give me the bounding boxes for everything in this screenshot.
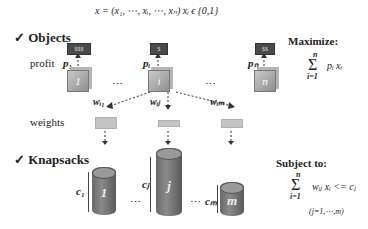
weight-bar-im bbox=[221, 119, 243, 128]
knapsack-label-m: m bbox=[227, 193, 237, 208]
constraint-expr: wᵢⱼ xᵢ <= cⱼ bbox=[312, 181, 356, 192]
weight-label-im: wᵢₘ bbox=[210, 96, 224, 107]
objects-heading: ✓ Objects bbox=[14, 30, 71, 46]
objective-expr: pᵢ xᵢ bbox=[327, 60, 342, 71]
knapsacks-ellipsis-left: ⋯ bbox=[130, 196, 142, 209]
capacity-label-m: cₘ bbox=[205, 195, 217, 208]
decision-vector-formula: x = (x₁, ⋯, xᵢ, ⋯, xₙ) xᵢ ϵ {0,1} bbox=[95, 5, 218, 16]
knapsack-label-1: 1 bbox=[101, 185, 108, 200]
weight-bar-ij bbox=[158, 120, 180, 127]
knapsack-1: 1 bbox=[92, 167, 116, 215]
constraint-title: Subject to: bbox=[276, 157, 327, 169]
knapsack-m: m bbox=[220, 182, 244, 216]
profit-symbol-n: pₙ bbox=[248, 57, 258, 70]
knapsacks-ellipsis-right: ⋯ bbox=[190, 196, 202, 209]
weight-label-ij: wᵢⱼ bbox=[150, 96, 160, 107]
capacity-brace-1 bbox=[88, 172, 89, 212]
capacity-label-j: cⱼ bbox=[142, 178, 149, 191]
object-cube-n: n bbox=[254, 70, 276, 92]
capacity-brace-m bbox=[217, 185, 218, 213]
profit-tag-i: $ bbox=[150, 43, 168, 55]
object-cube-i: i bbox=[148, 70, 170, 92]
objective-sigma: Σ bbox=[308, 58, 317, 72]
profit-symbol-i: pᵢ bbox=[143, 57, 150, 69]
profit-tag-1: $$$ bbox=[67, 43, 91, 55]
knapsack-j: j bbox=[156, 148, 182, 216]
objective-sum-bottom: i=1 bbox=[307, 72, 318, 81]
objects-ellipsis-right: ⋯ bbox=[205, 78, 217, 91]
constraint-sum-bottom: i=1 bbox=[290, 192, 301, 201]
profit-symbol-1: p₁ bbox=[63, 57, 72, 69]
profit-label: profit bbox=[30, 57, 54, 69]
weights-label: weights bbox=[30, 116, 64, 128]
knapsack-label-j: j bbox=[167, 178, 171, 193]
weight-bar-i1 bbox=[95, 117, 117, 129]
objects-ellipsis-left: ⋯ bbox=[112, 78, 124, 91]
weight-label-i1: wᵢ₁ bbox=[93, 96, 105, 107]
capacity-brace-j bbox=[150, 157, 151, 212]
objective-title: Maximize: bbox=[288, 35, 338, 47]
object-cube-1: 1 bbox=[67, 70, 89, 92]
knapsacks-heading: ✓ Knapsacks bbox=[14, 152, 89, 168]
profit-tag-n: $$ bbox=[255, 43, 275, 55]
constraint-range: (j=1,⋯,m) bbox=[309, 207, 344, 216]
constraint-sigma: Σ bbox=[291, 178, 300, 192]
capacity-label-1: c₁ bbox=[76, 185, 85, 197]
